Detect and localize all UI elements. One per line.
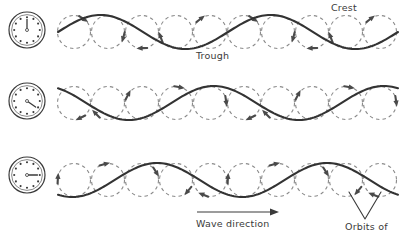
orbit-arrow-shaft	[124, 32, 125, 36]
orbit-arrow-shaft	[126, 95, 128, 99]
orbit-arrow-shaft	[161, 38, 163, 42]
clock-hour-dot	[20, 40, 22, 42]
clock-hour-dot	[15, 23, 17, 25]
orbit-arrow-head	[158, 32, 163, 39]
clock-hour-dot	[20, 163, 22, 165]
orbit-arrow-shaft	[344, 86, 349, 87]
orbit-arrow-shaft	[225, 96, 226, 101]
orbit-circle	[330, 87, 363, 120]
orbit-arrow-shaft	[270, 164, 274, 165]
clock-hour-dot	[32, 163, 34, 165]
orbit-arrow-shaft	[296, 95, 298, 99]
orbit-arrow-shaft	[331, 38, 333, 42]
clock-hour-dot	[15, 168, 17, 170]
orbit-arrow-head	[136, 46, 142, 51]
wave-diagram-figure: Crest Trough Wave direction Orbits of	[0, 0, 401, 236]
diagram-canvas	[0, 0, 401, 236]
orbit-arrow-shaft	[153, 168, 155, 172]
clock-hour-dot	[37, 94, 39, 96]
clock-hour-dot	[15, 35, 17, 37]
clock-hour-dot	[26, 187, 28, 189]
label-crest: Crest	[331, 2, 357, 13]
clock-row-3	[9, 157, 45, 193]
clock-hour-dot	[37, 168, 39, 170]
clock-hour-dot	[39, 174, 41, 176]
orbit-arrow-head	[198, 193, 205, 198]
orbit-arrow-shaft	[96, 114, 99, 117]
label-orbits-of: Orbits of	[345, 221, 388, 232]
orbit-arrow-head	[55, 173, 60, 179]
clock-row-1	[9, 12, 45, 48]
orbit-arrow-head	[225, 173, 230, 179]
orbit-arrow-shaft	[196, 19, 200, 22]
clock-hour-dot	[20, 18, 22, 20]
orbit-arrow-head	[103, 162, 110, 167]
orbit-arrow-shaft	[81, 115, 85, 117]
clock-hour-dot	[26, 42, 28, 44]
orbit-circle	[194, 87, 227, 120]
orbit-arrow-shaft	[100, 164, 104, 165]
wave-direction-arrow	[197, 209, 279, 216]
wave-row-row-2	[58, 85, 399, 121]
orbit-arrow-head	[121, 36, 126, 43]
clock-hour-dot	[32, 40, 34, 42]
clock-hour-dot	[13, 29, 15, 31]
clock-hour-dot	[20, 89, 22, 91]
clock-hour-dot	[15, 106, 17, 108]
clock-hour-dot	[20, 111, 22, 113]
orbit-arrow-shaft	[204, 195, 208, 197]
clock-hour-dot	[26, 16, 28, 18]
label-trough: Trough	[196, 50, 229, 61]
clock-hour-dot	[39, 29, 41, 31]
orbit-circle	[160, 87, 193, 120]
clock-hour-dot	[37, 180, 39, 182]
orbit-circle	[92, 16, 125, 49]
clock-hub	[26, 100, 29, 103]
orbit-arrow-head	[291, 36, 296, 43]
orbit-arrow-head	[348, 85, 355, 90]
clock-hour-dot	[15, 180, 17, 182]
orbit-arrow-shaft	[251, 115, 255, 117]
orbit-arrow-head	[368, 193, 375, 198]
orbit-arrow-shaft	[358, 187, 361, 191]
orbit-arrow-head	[273, 162, 280, 167]
clock-hour-dot	[32, 18, 34, 20]
label-wave-direction: Wave direction	[196, 218, 270, 229]
orbit-arrow-head	[328, 32, 333, 39]
clock-hub	[26, 29, 29, 32]
clock-row-2	[9, 83, 45, 119]
wave-profile-line	[58, 15, 398, 49]
wave-row-row-3	[55, 162, 398, 198]
orbit-circle	[58, 164, 91, 197]
clock-hour-dot	[20, 185, 22, 187]
clock-hour-dot	[39, 100, 41, 102]
wave-row-row-1	[58, 15, 399, 51]
clock-hour-dot	[37, 35, 39, 37]
orbit-circle	[262, 16, 295, 49]
clock-hour-dot	[26, 161, 28, 163]
clock-hour-dot	[32, 185, 34, 187]
orbit-arrow-shaft	[188, 187, 191, 191]
orbit-arrow-shaft	[174, 86, 179, 87]
clock-hour-dot	[32, 111, 34, 113]
clock-hour-dot	[13, 174, 15, 176]
orbit-arrow-head	[306, 46, 312, 51]
clock-hour-dot	[32, 89, 34, 91]
wave-direction-arrow-head	[270, 209, 279, 216]
orbit-arrow-shaft	[366, 19, 370, 22]
orbit-arrow-shaft	[395, 96, 396, 101]
wave-profile-line	[58, 86, 398, 120]
clock-hour-dot	[13, 100, 15, 102]
orbit-arrow-head	[178, 85, 185, 90]
clock-hour-dot	[26, 113, 28, 115]
clock-hub	[26, 174, 29, 177]
orbit-arrow-shaft	[323, 168, 325, 172]
orbit-arrow-shaft	[294, 32, 295, 36]
clock-hour-dot	[15, 94, 17, 96]
orbit-circle	[364, 87, 397, 120]
clock-hour-dot	[37, 23, 39, 25]
clock-hour-dot	[26, 87, 28, 89]
orbit-arrow-shaft	[374, 195, 378, 197]
clock-hour-dot	[37, 106, 39, 108]
orbit-arrow-shaft	[266, 114, 269, 117]
